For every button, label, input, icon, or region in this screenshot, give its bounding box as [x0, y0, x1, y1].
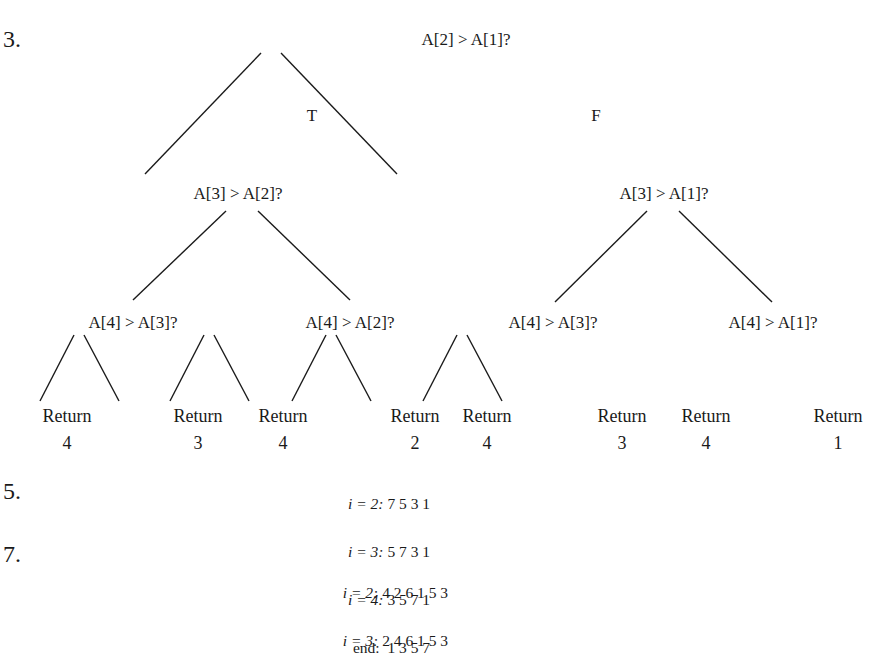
leaf-label: Return — [259, 403, 308, 430]
tree-leaf: Return4 — [259, 403, 308, 457]
tree-leaf: Return3 — [174, 403, 223, 457]
edge-label-false: F — [591, 106, 600, 126]
leaf-value: 2 — [391, 430, 440, 457]
tree-leaf: Return3 — [598, 403, 647, 457]
leaf-label: Return — [598, 403, 647, 430]
tree-node-level3-3: A[4] > A[3]? — [509, 313, 598, 333]
trace-row: i = 3: 2 4 6 1 5 3 — [280, 633, 448, 649]
edge-label-true: T — [307, 106, 317, 126]
trace-row: i = 2: 7 5 3 1 — [300, 496, 430, 512]
leaf-value: 1 — [814, 430, 863, 457]
leaf-value: 4 — [43, 430, 92, 457]
tree-leaf: Return1 — [814, 403, 863, 457]
leaf-value: 3 — [174, 430, 223, 457]
leaf-label: Return — [682, 403, 731, 430]
tree-leaf: Return4 — [43, 403, 92, 457]
leaf-value: 4 — [259, 430, 308, 457]
tree-node-level2-left: A[3] > A[2]? — [194, 184, 283, 204]
leaf-label: Return — [174, 403, 223, 430]
tree-leaf: Return4 — [463, 403, 512, 457]
tree-leaf: Return4 — [682, 403, 731, 457]
insertion-trace-7: i = 2: 4 2 6 1 5 3 i = 3: 2 4 6 1 5 3 i … — [280, 553, 448, 661]
tree-node-level2-right: A[3] > A[1]? — [620, 184, 709, 204]
leaf-label: Return — [391, 403, 440, 430]
tree-node-level3-4: A[4] > A[1]? — [729, 313, 818, 333]
leaf-label: Return — [814, 403, 863, 430]
tree-node-level3-2: A[4] > A[2]? — [306, 313, 395, 333]
tree-node-level3-1: A[4] > A[3]? — [89, 313, 178, 333]
leaf-label: Return — [463, 403, 512, 430]
leaf-value: 3 — [598, 430, 647, 457]
tree-root-node: A[2] > A[1]? — [422, 30, 511, 50]
leaf-value: 4 — [682, 430, 731, 457]
leaf-value: 4 — [463, 430, 512, 457]
trace-row: i = 2: 4 2 6 1 5 3 — [280, 585, 448, 601]
leaf-label: Return — [43, 403, 92, 430]
tree-leaf: Return2 — [391, 403, 440, 457]
